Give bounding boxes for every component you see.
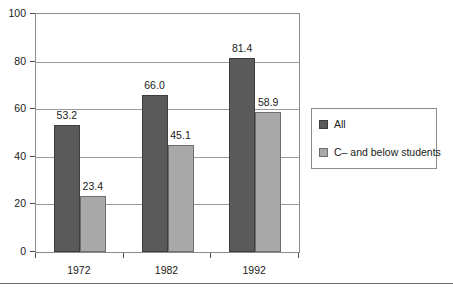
bar-value-label: 58.9 xyxy=(246,97,290,108)
bar-1992-series-1[interactable] xyxy=(255,112,281,252)
bar-1982-series-1[interactable] xyxy=(168,145,194,252)
plot-area: 53.223.466.045.181.458.9 xyxy=(35,13,300,253)
chart-legend: All C– and below students xyxy=(311,108,437,169)
legend-swatch-icon-c-below xyxy=(319,148,328,157)
bottom-rule-divider xyxy=(0,283,453,284)
y-tick-label: 20 xyxy=(0,198,26,208)
x-tick-label-1982: 1982 xyxy=(137,265,197,276)
y-tick-label: 100 xyxy=(0,8,26,18)
legend-label-all: All xyxy=(334,119,346,130)
x-axis: 197219821992 xyxy=(35,253,300,283)
bar-1972-series-1[interactable] xyxy=(80,196,106,252)
legend-item-all[interactable]: All xyxy=(319,117,429,131)
x-tick-mark xyxy=(123,253,124,258)
bar-chart-figure: 020406080100 53.223.466.045.181.458.9 19… xyxy=(0,0,453,289)
y-axis: 020406080100 xyxy=(0,13,35,253)
bar-1982-series-0[interactable] xyxy=(142,95,168,252)
y-tick-label: 40 xyxy=(0,151,26,161)
legend-label-c-below: C– and below students xyxy=(334,147,441,158)
gridline xyxy=(36,62,299,63)
x-tick-label-1972: 1972 xyxy=(49,265,109,276)
y-tick-label: 80 xyxy=(0,56,26,66)
bar-value-label: 66.0 xyxy=(133,80,177,91)
legend-item-c-below[interactable]: C– and below students xyxy=(319,145,429,159)
bar-value-label: 53.2 xyxy=(45,110,89,121)
x-tick-mark xyxy=(210,253,211,258)
x-tick-mark xyxy=(35,253,36,258)
y-tick-label: 60 xyxy=(0,103,26,113)
bar-value-label: 23.4 xyxy=(71,181,115,192)
x-tick-label-1992: 1992 xyxy=(224,265,284,276)
x-tick-mark xyxy=(298,253,299,258)
y-tick-label: 0 xyxy=(0,246,26,256)
bar-value-label: 45.1 xyxy=(159,130,203,141)
legend-swatch-icon-all xyxy=(319,120,328,129)
bar-value-label: 81.4 xyxy=(220,43,264,54)
bar-1992-series-0[interactable] xyxy=(229,58,255,252)
